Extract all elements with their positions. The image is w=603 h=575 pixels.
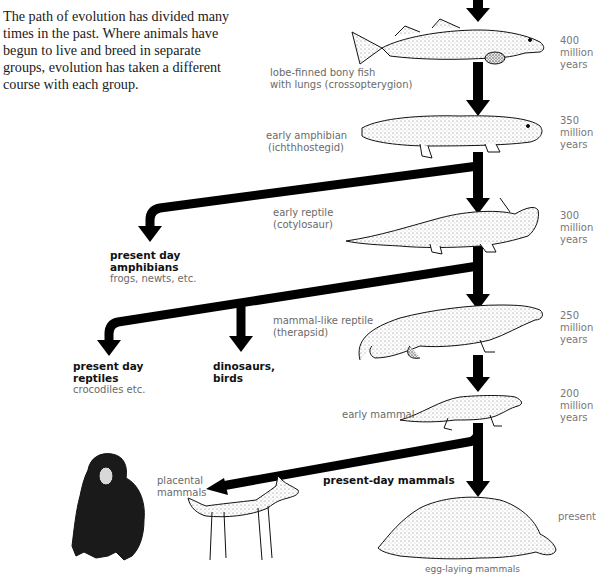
label-egg-laying-mammals: egg-laying mammals	[425, 563, 520, 575]
label-early-reptile: early reptile (cotylosaur)	[273, 207, 333, 231]
label-early-amphibian: early amphibian (ichthhostegid)	[266, 130, 346, 154]
therapsid-icon	[359, 305, 542, 360]
label-early-mammal: early mammal	[342, 409, 415, 421]
label-dinosaurs-birds: dinosaurs, birds	[213, 360, 275, 384]
reptile-icon	[346, 198, 539, 254]
amphibian-icon	[362, 116, 542, 158]
time-400: 400 million years	[560, 35, 593, 71]
time-200: 200 million years	[560, 388, 593, 424]
label-present-day-mammals: present-day mammals	[323, 474, 455, 486]
label-lobe-finned-fish: lobe-finned bony fish with lungs (crosso…	[270, 67, 412, 91]
chimpanzee-icon	[72, 454, 144, 560]
time-250: 250 million years	[560, 310, 593, 346]
early-mammal-icon	[400, 396, 522, 431]
label-placental-mammals: placental mammals	[157, 475, 206, 499]
fish-icon	[352, 19, 544, 64]
platypus-icon	[378, 497, 556, 559]
label-present-day-amphibians: present day amphibians frogs, newts, etc…	[110, 249, 196, 285]
time-present: present	[558, 511, 596, 523]
label-present-day-reptiles: present day reptiles crocodiles etc.	[73, 360, 145, 396]
label-mammal-like-reptile: mammal-like reptile (therapsid)	[273, 315, 373, 339]
time-350: 350 million years	[560, 115, 593, 151]
time-300: 300 million years	[560, 210, 593, 246]
